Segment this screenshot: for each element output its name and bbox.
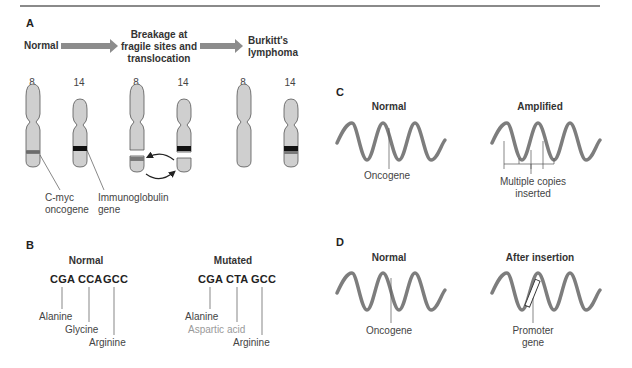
panel-c-normal-title: Normal [359, 101, 419, 113]
chromosome-14-breaking [177, 99, 191, 172]
ig-leader-line [87, 150, 104, 190]
panel-b-normal-title: Normal [56, 255, 116, 267]
multiple-copies-label: Multiple copies inserted [495, 176, 571, 200]
chromosome-8-burkitt [237, 84, 251, 167]
amino-mutated-aspartic-acid: Aspartic acid [188, 324, 245, 336]
codon-mutated-1: CGA [198, 273, 223, 285]
panel-d-oncogene-label: Oncogene [366, 325, 412, 337]
dna-wave-d-insertion [492, 273, 600, 310]
chromosome-8-normal [26, 84, 40, 167]
promoter-gene-label: Promoter gene [510, 325, 556, 349]
panel-d-insertion-title: After insertion [500, 252, 580, 264]
translocation-arrow-bottom [146, 172, 174, 179]
panel-c-amplified-title: Amplified [505, 101, 575, 113]
panel-c-oncogene-label: Oncogene [364, 170, 410, 182]
translocation-arrow-top [148, 154, 174, 160]
codon-normal-2: CCA [78, 273, 102, 285]
amino-mutated-arginine: Arginine [233, 337, 270, 349]
chromosome-8-breaking [130, 84, 144, 172]
amino-mutated-alanine: Alanine [185, 311, 218, 323]
codon-mutated-2: CTA [226, 273, 248, 285]
panel-d-letter: D [336, 236, 344, 248]
panel-b-letter: B [26, 239, 34, 251]
process-arrow-2 [200, 39, 243, 53]
codon-normal-3: GCC [103, 273, 128, 285]
cmyc-leader-line [40, 155, 60, 190]
amino-normal-alanine: Alanine [39, 311, 72, 323]
immunoglobulin-gene-label: Immunoglobulin gene [98, 192, 169, 216]
amino-normal-glycine: Glycine [65, 324, 98, 336]
panel-b-mutated-title: Mutated [203, 255, 263, 267]
panel-c-letter: C [336, 86, 344, 98]
dna-wave-c-amplified [492, 123, 600, 160]
codon-normal-1: CGA [50, 273, 75, 285]
process-arrow-1 [61, 39, 118, 53]
chromosome-14-normal [73, 99, 87, 167]
amino-normal-arginine: Arginine [89, 337, 126, 349]
codon-mutated-3: GCC [251, 273, 276, 285]
cmyc-oncogene-label: C-myc oncogene [45, 192, 89, 216]
chromosome-14-burkitt [284, 99, 298, 167]
dna-wave-c-normal [337, 123, 445, 160]
panel-d-normal-title: Normal [359, 252, 419, 264]
